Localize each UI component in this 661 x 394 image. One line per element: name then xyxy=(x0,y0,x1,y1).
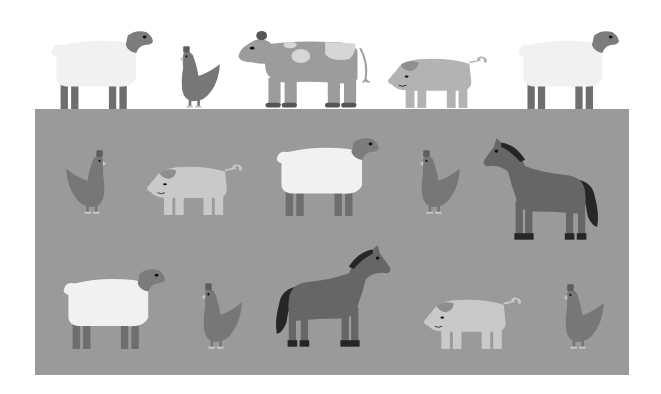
sheep-icon xyxy=(515,29,619,109)
cow-icon xyxy=(236,31,371,109)
hen-illustration xyxy=(189,282,243,350)
sheep-illustration xyxy=(515,29,619,109)
sheep-icon xyxy=(48,29,153,109)
sheep-icon xyxy=(273,136,379,216)
hen-illustration xyxy=(551,283,605,350)
pig-illustration xyxy=(389,55,487,109)
cow-illustration xyxy=(236,31,371,109)
horse-icon xyxy=(482,136,602,244)
pig-illustration xyxy=(425,296,521,350)
hen-illustration xyxy=(65,149,119,215)
hen-illustration xyxy=(167,45,221,109)
hen-icon xyxy=(189,282,243,350)
hen-illustration xyxy=(407,149,461,215)
sheep-illustration xyxy=(60,267,165,349)
horse-illustration xyxy=(482,136,602,244)
pig-illustration xyxy=(148,163,242,216)
hen-icon xyxy=(65,149,119,215)
pig-icon xyxy=(389,55,487,109)
sheep-illustration xyxy=(273,136,379,216)
sheep-illustration xyxy=(48,29,153,109)
farm-scene xyxy=(0,0,661,394)
pig-icon xyxy=(425,296,521,350)
hen-icon xyxy=(551,283,605,350)
pig-icon xyxy=(148,163,242,216)
hen-icon xyxy=(167,45,221,109)
sheep-icon xyxy=(60,267,165,349)
hen-icon xyxy=(407,149,461,215)
horse-icon xyxy=(272,243,392,351)
horse-illustration xyxy=(272,243,392,351)
